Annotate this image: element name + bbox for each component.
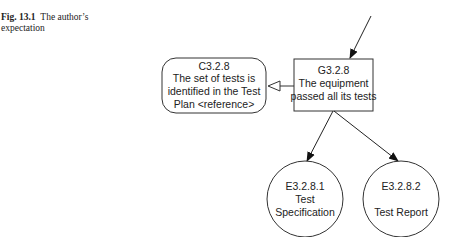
supported-by-arrow-2 xyxy=(334,111,398,161)
goal-line-1: The equipment xyxy=(298,77,368,89)
context-id: C3.2.8 xyxy=(199,60,230,72)
context-line-2: identified in the Test xyxy=(168,85,261,97)
evidence-node-1: E3.2.8.1 Test Specification xyxy=(267,161,343,237)
gsn-diagram: C3.2.8 The set of tests is identified in… xyxy=(0,0,460,237)
goal-node: G3.2.8 The equipment passed all its test… xyxy=(291,59,377,111)
evidence-2-id: E3.2.8.2 xyxy=(381,180,420,192)
supported-by-arrow-1 xyxy=(307,111,333,161)
incoming-arrow xyxy=(350,16,371,58)
evidence-node-2: E3.2.8.2 Test Report xyxy=(363,161,439,237)
evidence-1-line-2: Specification xyxy=(275,206,335,218)
evidence-1-line-1: Test xyxy=(295,193,314,205)
evidence-1-id: E3.2.8.1 xyxy=(285,180,324,192)
context-node: C3.2.8 The set of tests is identified in… xyxy=(162,58,266,113)
goal-line-2: passed all its tests xyxy=(291,90,377,102)
context-line-3: Plan <reference> xyxy=(174,98,255,110)
goal-id: G3.2.8 xyxy=(318,64,350,76)
evidence-2-line-2: Test Report xyxy=(374,206,428,218)
context-line-1: The set of tests is xyxy=(173,72,255,84)
